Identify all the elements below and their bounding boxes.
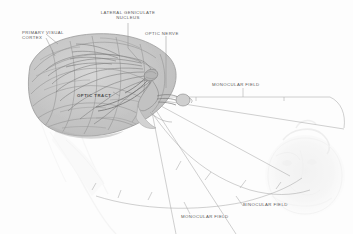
label-monocular-field-upper: MONOCULAR FIELD (212, 82, 260, 87)
label-primary-visual-cortex-line2: CORTEX (22, 35, 42, 40)
label-binocular-field: BINOCULAR FIELD (243, 202, 288, 207)
label-primary-visual-cortex-line1: PRIMARY VISUAL (22, 30, 64, 35)
label-optic-nerve: OPTIC NERVE (145, 31, 179, 36)
label-lgn-line1: LATERAL GENICULATE (101, 10, 156, 15)
label-monocular-field-lower: MONOCULAR FIELD (181, 214, 229, 219)
label-lgn-line2: NUCLEUS (116, 15, 139, 20)
label-lateral-geniculate-nucleus: LATERAL GENICULATE NUCLEUS (88, 10, 168, 21)
label-optic-tract: OPTIC TRACT (77, 93, 111, 98)
visual-pathway-figure: PRIMARY VISUAL CORTEX LATERAL GENICULATE… (0, 0, 353, 234)
label-primary-visual-cortex: PRIMARY VISUAL CORTEX (22, 30, 64, 41)
